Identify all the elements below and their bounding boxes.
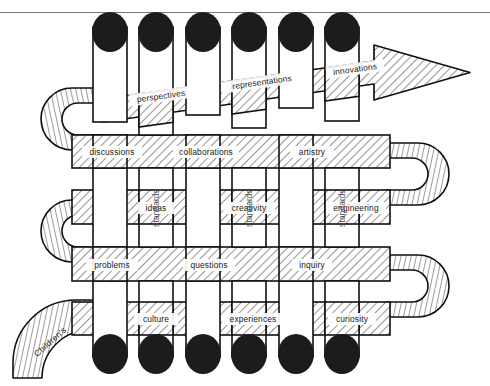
label-standards-1: standards	[152, 189, 161, 227]
label-inquiry: inquiry	[299, 260, 325, 270]
vstrip-3	[186, 27, 220, 357]
label-collaborations: collaborations	[179, 147, 233, 157]
weave-diagram: Children's	[0, 0, 490, 386]
label-artistry: artistry	[299, 147, 326, 157]
caps-top	[92, 12, 360, 52]
vstrip-1	[93, 27, 127, 357]
loop-right-upper	[387, 143, 449, 205]
loop-right-lower	[387, 255, 449, 317]
label-discussions: discussions	[90, 147, 135, 157]
label-problems: problems	[94, 260, 130, 270]
diagram-page: Children's	[0, 0, 490, 386]
labels-row5: culture experiences curiosity	[134, 313, 376, 325]
labels-row2: discussions collaborations artistry	[82, 146, 334, 158]
labels-row4: problems questions inquiry	[86, 259, 332, 271]
label-experiences: experiences	[230, 314, 277, 324]
label-standards-3: standards	[338, 189, 347, 227]
label-culture: culture	[143, 314, 169, 324]
label-questions: questions	[190, 260, 227, 270]
label-standards-2: standards	[245, 189, 254, 227]
caps-bottom	[92, 334, 360, 374]
label-curiosity: curiosity	[336, 314, 369, 324]
